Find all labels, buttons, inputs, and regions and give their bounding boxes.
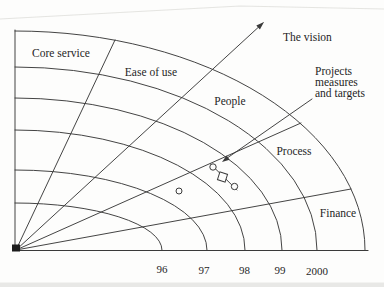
scan-artifact-line xyxy=(0,6,384,19)
page-shadow-strip xyxy=(0,283,384,287)
sector-divider-line xyxy=(16,189,351,250)
fan-diagram-svg: Core service Ease of use People Process … xyxy=(0,0,384,287)
sector-divider-line xyxy=(16,40,115,250)
data-point-square xyxy=(217,172,227,182)
sector-label-process: Process xyxy=(276,145,312,157)
vision-label: The vision xyxy=(283,31,332,43)
data-point-markers xyxy=(176,164,238,194)
fan-arc xyxy=(15,203,162,250)
year-tick-label-99: 99 xyxy=(275,264,287,276)
fan-arc xyxy=(15,130,245,250)
scanned-diagram-page: Core service Ease of use People Process … xyxy=(0,0,384,287)
sector-label-finance: Finance xyxy=(320,207,356,219)
year-tick-label-98: 98 xyxy=(239,264,251,276)
fan-arc xyxy=(15,98,282,250)
data-point-circle xyxy=(210,164,216,170)
callout-label-line3: and targets xyxy=(315,87,365,100)
year-tick-label-2000: 2000 xyxy=(306,265,329,277)
origin-dot xyxy=(12,245,20,252)
fan-labels: Core service Ease of use People Process … xyxy=(32,31,365,277)
sector-label-ease-of-use: Ease of use xyxy=(125,66,177,78)
sector-label-core-service: Core service xyxy=(32,47,90,59)
sector-label-people: People xyxy=(214,95,245,108)
data-point-circle xyxy=(231,183,237,189)
sector-divider-line xyxy=(16,123,301,250)
data-point-circle xyxy=(176,188,182,194)
year-tick-label-97: 97 xyxy=(199,264,211,276)
year-tick-label-96: 96 xyxy=(157,263,169,275)
